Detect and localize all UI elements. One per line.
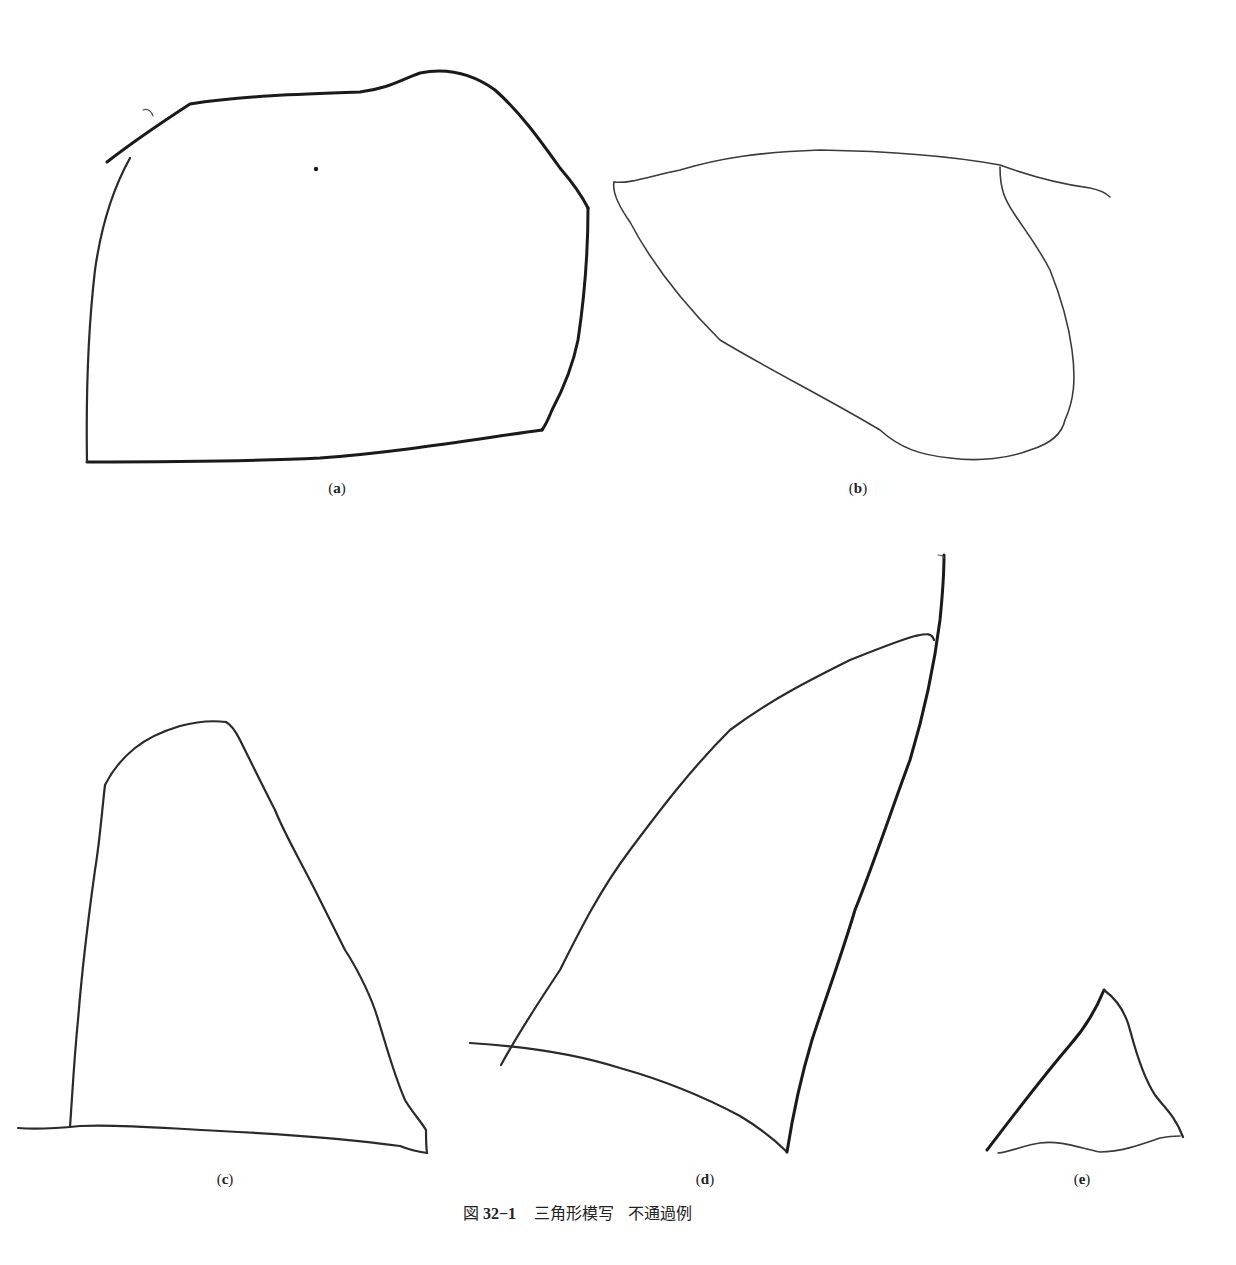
figure-page: (a) (b) (c) (d) (e) 図32−1三角形模写不通過例 — [0, 0, 1236, 1265]
label-close-paren: ) — [1085, 1171, 1090, 1187]
caption-title: 三角形模写 — [534, 1204, 614, 1223]
caption-prefix: 図 — [463, 1204, 479, 1223]
label-letter: e — [1079, 1171, 1086, 1187]
label-letter: a — [333, 480, 341, 496]
panel-label-d: (d) — [696, 1171, 714, 1188]
label-close-paren: ) — [341, 480, 346, 496]
panel-label-e: (e) — [1074, 1171, 1091, 1188]
panel-label-b: (b) — [849, 480, 867, 497]
label-close-paren: ) — [228, 1171, 233, 1187]
drawing-b — [614, 150, 1110, 460]
figure-caption: 図32−1三角形模写不通過例 — [463, 1200, 692, 1224]
drawing-a — [87, 71, 588, 462]
drawing-c — [18, 721, 427, 1153]
drawing-e — [987, 990, 1183, 1153]
drawings-canvas — [0, 0, 1236, 1265]
label-letter: c — [222, 1171, 229, 1187]
label-close-paren: ) — [862, 480, 867, 496]
drawing-d — [470, 555, 944, 1152]
panel-label-c: (c) — [217, 1171, 234, 1188]
label-close-paren: ) — [709, 1171, 714, 1187]
caption-figure-number: 32−1 — [483, 1205, 516, 1222]
panel-label-a: (a) — [328, 480, 346, 497]
caption-subtitle: 不通過例 — [628, 1204, 692, 1223]
